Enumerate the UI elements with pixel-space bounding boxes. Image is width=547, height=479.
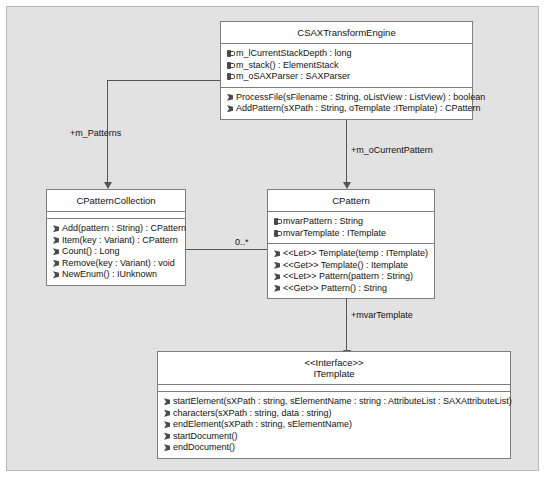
class-box-cpattern[interactable]: CPattern mvarPattern : String mvarTempla… <box>267 189 435 299</box>
public-visibility-icon <box>273 261 282 270</box>
operation-row: <<Let>> Template(temp : ITemplate) <box>273 248 430 260</box>
operation-row: endDocument() <box>163 442 506 454</box>
operation-label: <<Get>> Template() : Itemplate <box>283 260 408 272</box>
class-name-label: CSAXTransformEngine <box>297 27 395 38</box>
operation-label: <<Get>> Pattern() : String <box>283 283 387 295</box>
public-visibility-icon <box>52 270 61 279</box>
class-box-csaxtransformengine[interactable]: CSAXTransformEngine m_lCurrentStackDepth… <box>220 21 473 120</box>
attributes-compartment-engine: m_lCurrentStackDepth : long m_stack() : … <box>221 44 472 87</box>
operation-label: endElement(sXPath : string, sElementName… <box>173 419 352 431</box>
attribute-label: mvarPattern : String <box>283 216 363 228</box>
operations-compartment-engine: ProcessFile(sFilename : String, oListVie… <box>221 88 472 119</box>
public-visibility-icon <box>52 224 61 233</box>
public-visibility-icon <box>163 420 172 429</box>
attribute-row: m_oSAXParser : SAXParser <box>226 71 468 83</box>
attribute-row: m_lCurrentStackDepth : long <box>226 48 468 60</box>
operation-row: endElement(sXPath : string, sElementName… <box>163 419 506 431</box>
operation-row: <<Get>> Template() : Itemplate <box>273 260 430 272</box>
class-box-cpatterncollection[interactable]: CPatternCollection Add(pattern : String)… <box>46 189 186 286</box>
private-visibility-icon <box>226 49 235 58</box>
connector-label-m-ocurrentpattern: +m_oCurrentPattern <box>351 145 433 155</box>
class-title-itemplate: <<Interface>> ITemplate <box>158 352 510 384</box>
connector-collection-pattern-horizontal <box>186 249 267 250</box>
operation-row: <<Get>> Pattern() : String <box>273 283 430 295</box>
operation-row: startElement(sXPath : string, sElementNa… <box>163 396 506 408</box>
attribute-row: mvarTemplate : ITemplate <box>273 228 430 240</box>
public-visibility-icon <box>52 259 61 268</box>
attribute-label: mvarTemplate : ITemplate <box>283 228 386 240</box>
operation-label: endDocument() <box>173 442 235 454</box>
public-visibility-icon <box>163 432 172 441</box>
public-visibility-icon <box>226 104 235 113</box>
operations-compartment-collection: Add(pattern : String) : CPattern Item(ke… <box>47 219 185 285</box>
attributes-compartment-pattern: mvarPattern : String mvarTemplate : ITem… <box>268 212 434 243</box>
operation-row: Remove(key : Variant) : void <box>52 258 181 270</box>
attribute-label: m_stack() : ElementStack <box>236 60 339 72</box>
connector-label-m-patterns: +m_Patterns <box>70 128 121 138</box>
private-visibility-icon <box>226 61 235 70</box>
connector-engine-collection-horizontal <box>107 80 225 81</box>
class-title-cpattern: CPattern <box>268 190 434 211</box>
operation-label: NewEnum() : IUnknown <box>62 269 157 281</box>
public-visibility-icon <box>52 247 61 256</box>
operation-label: Item(key : Variant) : CPattern <box>62 235 178 247</box>
public-visibility-icon <box>163 443 172 452</box>
class-title-csaxtransformengine: CSAXTransformEngine <box>221 22 472 43</box>
operation-row: Count() : Long <box>52 246 181 258</box>
class-name-label: ITemplate <box>313 368 354 379</box>
operation-label: AddPattern(sXPath : String, oTemplate :I… <box>236 103 481 115</box>
private-visibility-icon <box>273 217 282 226</box>
operation-label: ProcessFile(sFilename : String, oListVie… <box>236 92 485 104</box>
operations-compartment-pattern: <<Let>> Template(temp : ITemplate) <<Get… <box>268 244 434 298</box>
class-name-label: CPatternCollection <box>76 195 155 206</box>
public-visibility-icon <box>226 93 235 102</box>
public-visibility-icon <box>163 397 172 406</box>
connector-label-mvartemplate: +mvarTemplate <box>351 310 413 320</box>
private-visibility-icon <box>273 229 282 238</box>
arrowhead-collection <box>104 182 112 189</box>
operation-row: Item(key : Variant) : CPattern <box>52 235 181 247</box>
operation-label: Remove(key : Variant) : void <box>62 258 175 270</box>
operation-label: characters(sXPath : string, data : strin… <box>173 408 332 420</box>
operation-label: Add(pattern : String) : CPattern <box>62 223 186 235</box>
diagram-canvas: +m_Patterns +m_oCurrentPattern 0..* +mva… <box>6 6 539 471</box>
private-visibility-icon <box>226 72 235 81</box>
class-box-itemplate[interactable]: <<Interface>> ITemplate startElement(sXP… <box>157 351 511 459</box>
operation-label: Count() : Long <box>62 246 120 258</box>
attribute-row: mvarPattern : String <box>273 216 430 228</box>
attribute-row: m_stack() : ElementStack <box>226 60 468 72</box>
operation-row: startDocument() <box>163 431 506 443</box>
attribute-label: m_oSAXParser : SAXParser <box>236 71 350 83</box>
operation-label: startDocument() <box>173 431 238 443</box>
attribute-label: m_lCurrentStackDepth : long <box>236 48 352 60</box>
operation-label: startElement(sXPath : string, sElementNa… <box>173 396 512 408</box>
class-title-cpatterncollection: CPatternCollection <box>47 190 185 211</box>
operation-label: <<Let>> Template(temp : ITemplate) <box>283 248 428 260</box>
arrowhead-pattern <box>343 182 351 189</box>
multiplicity-label-zero-to-many: 0..* <box>235 237 249 247</box>
operations-compartment-itemplate: startElement(sXPath : string, sElementNa… <box>158 392 510 458</box>
operation-row: <<Let>> Pattern(pattern : String) <box>273 271 430 283</box>
operation-label: <<Let>> Pattern(pattern : String) <box>283 271 413 283</box>
operation-row: AddPattern(sXPath : String, oTemplate :I… <box>226 103 468 115</box>
operation-row: Add(pattern : String) : CPattern <box>52 223 181 235</box>
public-visibility-icon <box>52 236 61 245</box>
operation-row: NewEnum() : IUnknown <box>52 269 181 281</box>
public-visibility-icon <box>273 249 282 258</box>
public-visibility-icon <box>273 284 282 293</box>
operation-row: ProcessFile(sFilename : String, oListVie… <box>226 92 468 104</box>
public-visibility-icon <box>273 272 282 281</box>
public-visibility-icon <box>163 409 172 418</box>
class-name-label: CPattern <box>332 195 370 206</box>
stereotype-label: <<Interface>> <box>162 357 506 368</box>
operation-row: characters(sXPath : string, data : strin… <box>163 408 506 420</box>
